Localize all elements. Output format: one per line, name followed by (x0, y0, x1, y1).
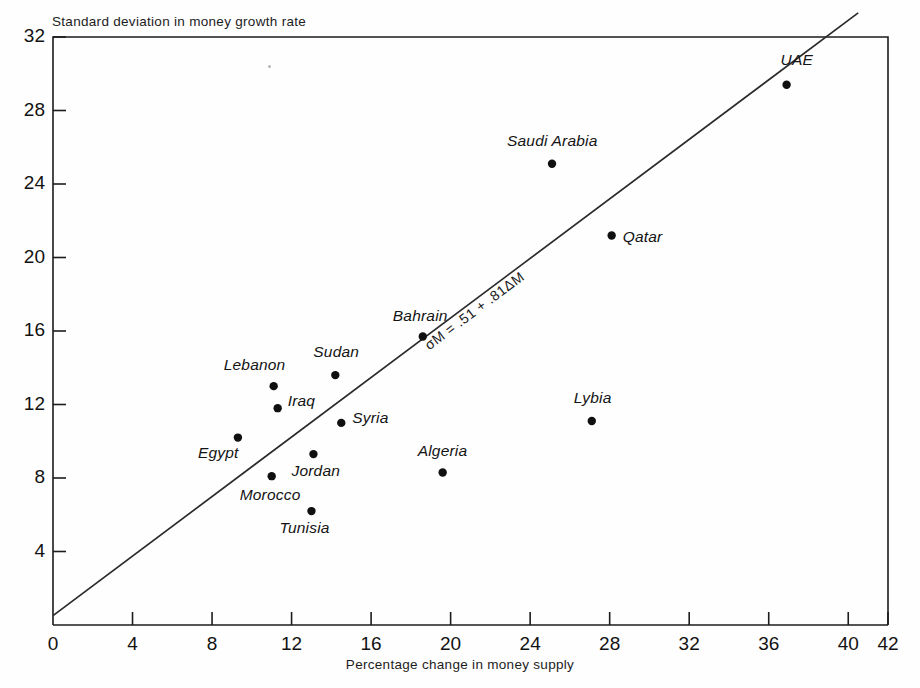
data-point-marker[interactable] (267, 472, 275, 480)
y-tick-label: 16 (5, 319, 45, 341)
data-point-label: Bahrain (393, 307, 448, 325)
data-point-marker[interactable] (337, 419, 345, 427)
data-point-label: UAE (781, 51, 813, 69)
x-axis-title: Percentage change in money supply (0, 657, 920, 672)
data-point-marker[interactable] (269, 382, 277, 390)
data-point-label: Sudan (313, 343, 359, 361)
x-tick-label: 8 (192, 633, 232, 655)
y-tick-label: 20 (5, 246, 45, 268)
x-tick-label: 36 (749, 633, 789, 655)
x-tick-label: 4 (113, 633, 153, 655)
y-tick-label: 8 (5, 466, 45, 488)
scan-artifact-speck (268, 65, 271, 68)
y-axis-title: Standard deviation in money growth rate (52, 14, 306, 29)
data-point-label: Lybia (574, 389, 612, 407)
data-point-marker[interactable] (331, 371, 339, 379)
data-point-label: Jordan (291, 462, 340, 480)
data-point-marker[interactable] (307, 507, 315, 515)
data-point-marker[interactable] (607, 231, 615, 239)
y-tick-label: 28 (5, 99, 45, 121)
data-point-marker[interactable] (234, 433, 242, 441)
scatter-chart-figure: Standard deviation in money growth rate … (0, 0, 920, 688)
data-point-marker[interactable] (273, 404, 281, 412)
data-point-label: Qatar (623, 228, 663, 246)
data-point-marker[interactable] (309, 450, 317, 458)
y-tick-label: 12 (5, 393, 45, 415)
data-point-label: Iraq (288, 392, 316, 410)
x-tick-label: 0 (33, 633, 73, 655)
data-point-marker[interactable] (548, 160, 556, 168)
x-tick-label: 16 (351, 633, 391, 655)
x-tick-label: 40 (828, 633, 868, 655)
data-point-label: Algeria (418, 442, 468, 460)
x-tick-label: 32 (669, 633, 709, 655)
data-point-label: Egypt (198, 444, 239, 462)
x-tick-label: 12 (272, 633, 312, 655)
data-point-label: Tunisia (279, 519, 329, 537)
x-tick-label: 20 (431, 633, 471, 655)
x-tick-label: 42 (868, 633, 908, 655)
plot-frame (53, 37, 888, 625)
x-tick-label: 24 (510, 633, 550, 655)
y-tick-label: 32 (5, 25, 45, 47)
data-point-label: Saudi Arabia (507, 132, 598, 150)
data-point-marker[interactable] (588, 417, 596, 425)
data-point-label: Lebanon (224, 356, 286, 374)
x-tick-label: 28 (590, 633, 630, 655)
data-point-label: Syria (352, 409, 388, 427)
data-point-marker[interactable] (782, 81, 790, 89)
data-point-label: Morocco (240, 486, 301, 504)
plot-canvas (0, 0, 920, 688)
y-tick-label: 24 (5, 172, 45, 194)
y-tick-label: 4 (5, 540, 45, 562)
data-point-marker[interactable] (438, 468, 446, 476)
